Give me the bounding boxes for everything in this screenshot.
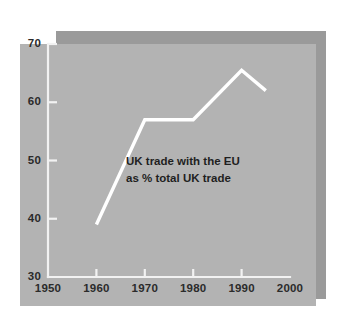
y-axis-ticks <box>48 44 57 219</box>
figure-root: 3040506070 195019601970198019902000 UK t… <box>0 0 337 323</box>
y-tick-label: 60 <box>15 95 41 107</box>
y-tick-label: 70 <box>15 37 41 49</box>
annotation-line-2: as % total UK trade <box>126 170 240 187</box>
data-series-line <box>96 70 265 224</box>
x-tick-label: 1980 <box>173 282 213 294</box>
y-tick-label: 50 <box>15 154 41 166</box>
x-tick-label: 1950 <box>28 282 68 294</box>
x-tick-label: 1960 <box>76 282 116 294</box>
x-tick-label: 1970 <box>125 282 165 294</box>
annotation-line-1: UK trade with the EU <box>126 153 240 170</box>
x-axis-ticks <box>96 269 241 277</box>
data-series-group <box>96 70 265 224</box>
y-tick-label: 30 <box>15 270 41 282</box>
series-annotation: UK trade with the EU as % total UK trade <box>126 153 240 187</box>
x-tick-label: 1990 <box>222 282 262 294</box>
x-tick-label: 2000 <box>270 282 310 294</box>
y-tick-label: 40 <box>15 212 41 224</box>
